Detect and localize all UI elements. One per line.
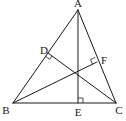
label-e: E bbox=[75, 106, 82, 118]
right-angle-marks bbox=[46, 56, 95, 103]
vertex-labels: A B C D E F bbox=[2, 0, 122, 118]
label-d: D bbox=[40, 44, 48, 56]
triangle-diagram: A B C D E F bbox=[0, 0, 126, 121]
label-a: A bbox=[74, 0, 82, 9]
side-ab bbox=[13, 10, 78, 103]
altitude-bf bbox=[13, 62, 97, 103]
right-angle-mark-d bbox=[46, 56, 52, 59]
right-angle-mark-e bbox=[78, 98, 83, 103]
label-c: C bbox=[115, 104, 122, 116]
label-b: B bbox=[2, 104, 9, 116]
label-f: F bbox=[101, 54, 107, 66]
